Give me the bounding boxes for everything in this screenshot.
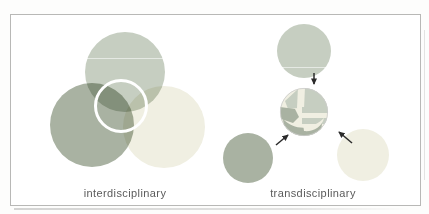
figure-canvas: interdisciplinary bbox=[0, 0, 429, 214]
scan-artifact-line bbox=[87, 58, 163, 59]
merge-arrows bbox=[216, 59, 356, 151]
interdisciplinary-label: interdisciplinary bbox=[40, 187, 210, 199]
arrow-up-right-icon bbox=[276, 135, 288, 145]
transdisciplinary-label: transdisciplinary bbox=[228, 187, 398, 199]
arrow-up-left-icon bbox=[339, 132, 352, 143]
scan-shadow bbox=[14, 208, 410, 210]
figure-frame: interdisciplinary bbox=[10, 14, 421, 206]
scan-edge-line bbox=[424, 30, 425, 180]
overlap-highlight-ring bbox=[94, 79, 148, 133]
